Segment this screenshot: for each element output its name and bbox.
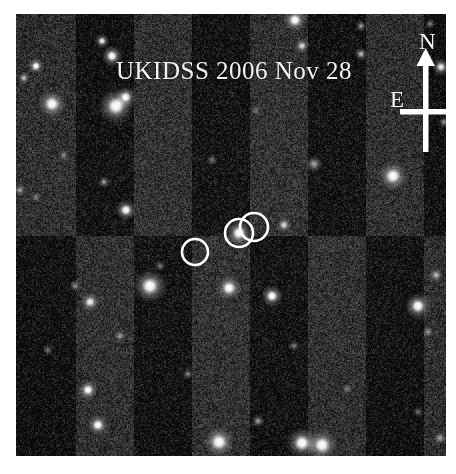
sky-image-plate: UKIDSS 2006 Nov 28 N E (16, 14, 446, 456)
astronomy-figure: UKIDSS 2006 Nov 28 N E (0, 0, 456, 474)
compass-east-label: E (390, 88, 404, 111)
plate-caption: UKIDSS 2006 Nov 28 (116, 58, 352, 84)
compass-north-label: N (419, 30, 436, 53)
